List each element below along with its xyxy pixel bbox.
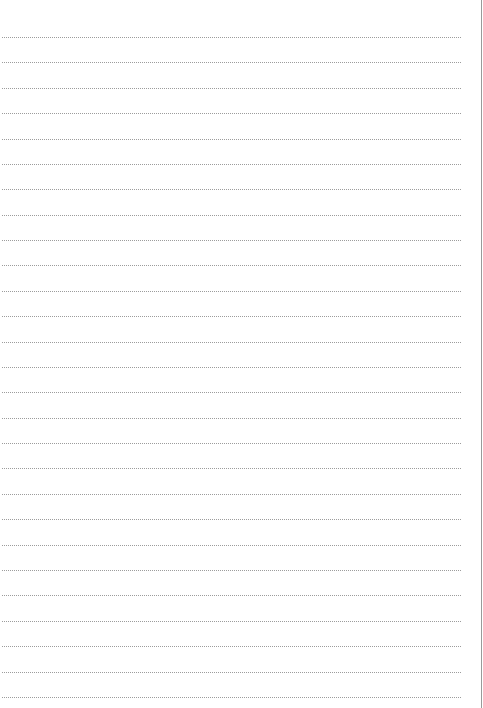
ruled-line (2, 468, 461, 469)
ruled-line (2, 367, 461, 368)
ruled-line (2, 113, 461, 114)
ruled-line (2, 697, 461, 698)
ruled-line (2, 392, 461, 393)
ruled-line (2, 545, 461, 546)
ruled-line (2, 342, 461, 343)
ruled-line (2, 215, 461, 216)
ruled-line (2, 443, 461, 444)
ruled-line (2, 621, 461, 622)
ruled-line (2, 62, 461, 63)
lined-paper-page (0, 0, 481, 708)
ruled-line (2, 88, 461, 89)
ruled-line (2, 189, 461, 190)
ruled-line (2, 240, 461, 241)
ruled-line (2, 595, 461, 596)
ruled-line (2, 316, 461, 317)
ruled-line (2, 418, 461, 419)
page-right-edge (481, 0, 482, 708)
ruled-line (2, 494, 461, 495)
ruled-line (2, 672, 461, 673)
ruled-line (2, 519, 461, 520)
ruled-line (2, 291, 461, 292)
ruled-line (2, 139, 461, 140)
ruled-line (2, 570, 461, 571)
ruled-line (2, 265, 461, 266)
ruled-line (2, 646, 461, 647)
ruled-line (2, 37, 461, 38)
ruled-line (2, 164, 461, 165)
